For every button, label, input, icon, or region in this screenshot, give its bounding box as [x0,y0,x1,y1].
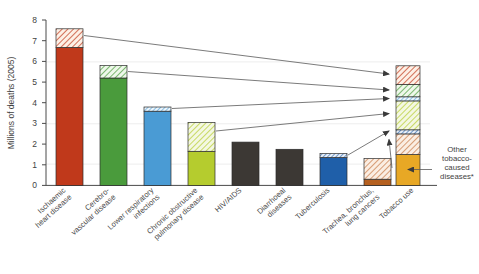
x-category-labels: Ischaemic heart disease Cerebro- vascula… [27,185,415,242]
segment-lung-cancers [396,134,420,155]
bar-solid [276,149,303,185]
cat-label-tobacco-use: Tobacco use [378,186,416,221]
y-tick-5: 5 [32,77,37,87]
bar-tobacco-use [396,66,420,186]
bar-hatched [144,107,171,111]
cat-label-ischaemic-heart-disease: Ischaemic heart disease [27,186,73,230]
y-tick-7: 7 [32,36,37,46]
leader-tuberculosis [348,131,389,155]
y-tick-3: 3 [32,118,37,128]
y-tick-4: 4 [32,98,37,108]
bar-solid [144,111,171,185]
bar-solid [188,151,215,185]
y-tick-0: 0 [32,180,37,190]
bar-hiv-aids [232,142,259,185]
annotation-line-4: diseases* [440,172,474,181]
bar-hatched [56,29,83,48]
segment-cerebrovascular [396,84,420,96]
bar-trachea-bronchus-lung-cancers [364,159,391,186]
segment-lower-respiratory [396,97,420,101]
bar-ischaemic-heart-disease [56,29,83,186]
bar-chronic-obstructive-pulmonary-disease [188,122,215,185]
y-tick-8: 8 [32,15,37,25]
leader-ischaemic [84,36,389,75]
bar-diarrhoeal-diseases [276,149,303,185]
bar-solid [232,142,259,185]
leader-lower-respiratory [172,99,389,109]
bar-hatched [320,154,347,158]
leader-cerebrovascular [128,72,389,91]
bar-hatched [188,122,215,151]
cat-label-tuberculosis: Tuberculosis [294,186,332,221]
cat-line-1: Tobacco use [378,186,416,221]
bar-solid [56,47,83,185]
tobacco-deaths-chart: 8 7 6 5 4 3 2 1 0 Millions of deaths (20… [0,0,479,274]
cat-line-1: Tuberculosis [294,186,332,221]
bar-tuberculosis [320,154,347,186]
cat-label-hiv-aids: HIV/AIDS [213,186,243,214]
bar-cerebrovascular-disease [100,66,127,186]
bar-lower-respiratory-infections [144,107,171,185]
y-axis-title: Millions of deaths (2005) [6,57,16,150]
segment-copd [396,101,420,130]
bar-hatched [364,159,391,180]
bar-solid [364,179,391,185]
cat-line-1: HIV/AIDS [213,186,243,214]
cat-label-trachea-bronchus-lung-cancers: Trachea, bronchus, lung cancers [321,186,382,243]
bar-solid [100,78,127,185]
cat-label-diarrhoeal-diseases: Diarrhoeal diseases [255,186,293,223]
annotation-other-tobacco-caused-diseases: Other tobacco- caused diseases* [440,145,474,181]
segment-other-tobacco-caused [396,155,420,186]
segment-tuberculosis [396,130,420,134]
y-tick-6: 6 [32,56,37,66]
chart-canvas: 8 7 6 5 4 3 2 1 0 Millions of deaths (20… [0,0,479,274]
bar-solid [320,158,347,186]
y-tick-1: 1 [32,160,37,170]
bar-hatched [100,66,127,78]
leader-copd [216,114,389,132]
y-tick-2: 2 [32,139,37,149]
y-tick-labels: 8 7 6 5 4 3 2 1 0 [32,15,37,190]
annotation-line-3: caused [444,163,469,172]
segment-ischaemic [396,66,420,85]
annotation-line-2: tobacco- [442,154,472,163]
annotation-line-1: Other [447,145,467,154]
